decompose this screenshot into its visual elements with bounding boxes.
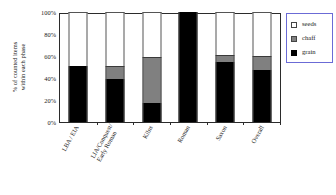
- stacked-bar[interactable]: [252, 12, 271, 122]
- legend-swatch-seeds-icon: [291, 22, 297, 28]
- x-axis-label-slot: Saxon: [207, 124, 244, 194]
- legend-label-seeds: seeds: [302, 21, 316, 28]
- bar-slot: [133, 14, 170, 122]
- legend-label-chaff: chaff: [302, 35, 315, 42]
- plot-area: [59, 13, 281, 123]
- bar-segment-chaff: [252, 56, 271, 70]
- y-axis-title: % of counted items within each phase: [8, 8, 30, 126]
- chart-legend: seeds chaff grain: [286, 13, 333, 63]
- legend-swatch-chaff-icon: [291, 36, 297, 42]
- y-axis-tick-20%: 20%: [44, 98, 56, 104]
- y-axis-title-line-2: within each phase: [19, 42, 27, 92]
- x-axis-label-slot: Kilns: [133, 124, 170, 194]
- legend-item-grain: grain: [291, 46, 329, 59]
- x-axis-tick-labels: LBA / EIALIA/Conquest/Early RomanKilnsRo…: [59, 124, 281, 194]
- legend-item-chaff: chaff: [291, 32, 329, 45]
- bar-segment-chaff: [105, 66, 124, 79]
- x-axis-label-line: Roman: [176, 124, 191, 144]
- bar-segment-grain: [215, 62, 234, 123]
- x-axis-label-kilns: Kilns: [142, 124, 155, 140]
- bar-segment-grain: [179, 12, 198, 122]
- y-axis-tick-labels: 0%20%40%60%80%100%: [28, 0, 58, 195]
- stacked-bar[interactable]: [179, 12, 198, 122]
- x-axis-label-slot: Roman: [170, 124, 207, 194]
- y-axis-tick-0%: 0%: [47, 120, 56, 126]
- y-axis-tick-100%: 100%: [41, 10, 56, 16]
- stacked-bar[interactable]: [215, 12, 234, 122]
- x-axis-label-slot: LBA / EIA: [59, 124, 96, 194]
- bar-slot: [60, 14, 97, 122]
- stacked-bar[interactable]: [105, 12, 124, 122]
- x-axis-label-lba-eia: LBA / EIA: [61, 124, 81, 152]
- bar-segment-chaff: [142, 57, 161, 103]
- x-axis-label-roman: Roman: [176, 124, 191, 144]
- bar-segment-grain: [105, 79, 124, 122]
- bar-segment-grain: [69, 66, 88, 122]
- bar-segment-seeds: [142, 12, 161, 57]
- x-axis-label-line: LBA / EIA: [61, 124, 81, 152]
- x-axis-label-line: Overall: [250, 124, 266, 144]
- x-axis-label-slot: LIA/Conquest/Early Roman: [96, 124, 133, 194]
- bar-segment-grain: [252, 70, 271, 122]
- stacked-bar[interactable]: [69, 12, 88, 122]
- x-axis-label-line: Kilns: [142, 124, 155, 140]
- bar-slot: [97, 14, 134, 122]
- stacked-bar[interactable]: [142, 12, 161, 122]
- x-axis-label-slot: Overall: [244, 124, 281, 194]
- bar-segment-grain: [142, 103, 161, 122]
- bar-slot: [243, 14, 280, 122]
- x-axis-label-line: Saxon: [214, 124, 228, 142]
- y-axis-title-line-1: % of counted items: [11, 42, 19, 92]
- legend-label-grain: grain: [302, 49, 316, 56]
- x-axis-label-saxon: Saxon: [214, 124, 228, 142]
- y-axis-tick-40%: 40%: [44, 76, 56, 82]
- legend-item-seeds: seeds: [291, 18, 329, 31]
- x-axis-label-overall: Overall: [250, 124, 266, 144]
- bar-segment-seeds: [69, 12, 88, 66]
- bar-segment-seeds: [105, 12, 124, 66]
- bar-segment-seeds: [215, 12, 234, 55]
- y-axis-tick-80%: 80%: [44, 32, 56, 38]
- legend-swatch-grain-icon: [291, 50, 297, 56]
- stacked-bar-chart-figure: % of counted items within each phase 0%2…: [0, 0, 336, 195]
- bar-segment-chaff: [215, 55, 234, 62]
- y-axis-tick-60%: 60%: [44, 54, 56, 60]
- bar-segment-seeds: [252, 12, 271, 56]
- bar-slot: [207, 14, 244, 122]
- bar-slot: [170, 14, 207, 122]
